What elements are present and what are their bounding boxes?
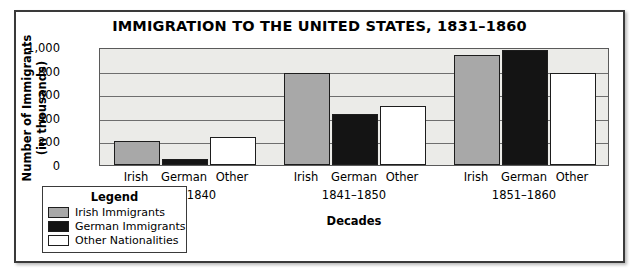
bar bbox=[162, 159, 208, 165]
x-axis-tick-label: German bbox=[331, 170, 377, 184]
x-axis-tick-label: Other bbox=[216, 170, 249, 184]
chart-figure: IMMIGRATION TO THE UNITED STATES, 1831–1… bbox=[14, 10, 625, 263]
x-axis-tick-label: Irish bbox=[294, 170, 319, 184]
x-axis-tick-label: German bbox=[161, 170, 207, 184]
y-axis-tick-label: 800 bbox=[0, 65, 60, 79]
legend-swatch-german bbox=[48, 221, 69, 232]
legend-item: Other Nationalities bbox=[48, 234, 181, 247]
legend-item-label: Irish Immigrants bbox=[75, 206, 165, 219]
chart-title: IMMIGRATION TO THE UNITED STATES, 1831–1… bbox=[16, 18, 623, 34]
bar bbox=[284, 73, 330, 165]
x-axis-tick-label: Irish bbox=[124, 170, 149, 184]
x-axis-tick-label: Irish bbox=[464, 170, 489, 184]
y-axis-tick-label: 0 bbox=[0, 159, 60, 173]
y-axis-tick-label: 1,000 bbox=[0, 41, 60, 55]
legend-item-label: German Immigrants bbox=[75, 220, 186, 233]
x-axis-group-label: 1841–1850 bbox=[322, 188, 386, 202]
legend: Legend Irish ImmigrantsGerman Immigrants… bbox=[42, 186, 187, 253]
legend-title: Legend bbox=[48, 190, 181, 204]
legend-entries: Irish ImmigrantsGerman ImmigrantsOther N… bbox=[48, 206, 181, 247]
legend-swatch-irish bbox=[48, 207, 69, 218]
bar bbox=[114, 141, 160, 165]
y-axis-tick-label: 200 bbox=[0, 135, 60, 149]
legend-item: German Immigrants bbox=[48, 220, 181, 233]
legend-item: Irish Immigrants bbox=[48, 206, 181, 219]
bar bbox=[454, 55, 500, 165]
x-axis-group-label: 1851–1860 bbox=[492, 188, 556, 202]
x-axis-tick-label: Other bbox=[386, 170, 419, 184]
legend-swatch-other bbox=[48, 235, 69, 246]
bar bbox=[210, 137, 256, 165]
bar bbox=[550, 73, 596, 165]
y-axis-tick-label: 600 bbox=[0, 88, 60, 102]
bar bbox=[380, 106, 426, 165]
legend-item-label: Other Nationalities bbox=[75, 234, 179, 247]
x-axis-tick-label: German bbox=[501, 170, 547, 184]
bar bbox=[332, 114, 378, 165]
y-axis-tick-label: 400 bbox=[0, 112, 60, 126]
plot-area bbox=[99, 48, 609, 166]
x-axis-tick-label: Other bbox=[556, 170, 589, 184]
bar bbox=[502, 50, 548, 165]
